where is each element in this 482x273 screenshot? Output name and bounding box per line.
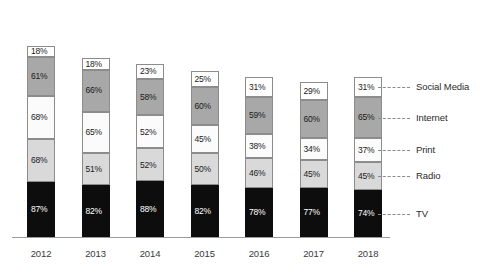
segment-print-2017: 34% (300, 138, 328, 160)
segment-print-2015: 45% (191, 125, 219, 153)
segment-print-2016: 38% (245, 134, 273, 158)
segment-value-label: 25% (192, 75, 211, 84)
segment-value-label: 66% (83, 86, 102, 95)
bar-2015: 82%50%45%60%25% (191, 0, 219, 237)
segment-internet-2012: 61% (27, 57, 55, 96)
segment-value-label: 78% (246, 208, 265, 217)
segment-value-label: 60% (192, 102, 211, 111)
x-tick-2017: 2017 (284, 248, 344, 259)
legend-label-social-media: Social Media (416, 81, 469, 92)
segment-social-media-2017: 29% (300, 82, 328, 100)
segment-value-label: 68% (28, 156, 47, 165)
bar-2017: 77%45%34%60%29% (300, 0, 328, 237)
segment-internet-2014: 58% (136, 79, 164, 116)
segment-value-label: 74% (355, 209, 374, 218)
segment-value-label: 45% (192, 135, 211, 144)
x-tick-2012: 2012 (11, 248, 71, 259)
segment-radio-2015: 50% (191, 153, 219, 185)
stacked-bar-chart: 87%68%68%61%18%82%51%65%66%18%88%52%52%5… (0, 0, 482, 273)
segment-value-label: 31% (246, 83, 265, 92)
leader-line-social-media (378, 87, 410, 88)
segment-value-label: 77% (301, 208, 320, 217)
segment-social-media-2013: 18% (82, 58, 110, 69)
segment-tv-2016: 78% (245, 188, 273, 237)
segment-internet-2013: 66% (82, 70, 110, 112)
segment-value-label: 31% (355, 83, 374, 92)
segment-tv-2014: 88% (136, 181, 164, 237)
x-tick-2013: 2013 (66, 248, 126, 259)
legend-label-tv: TV (416, 208, 428, 219)
x-tick-2014: 2014 (120, 248, 180, 259)
segment-internet-2015: 60% (191, 87, 219, 125)
segment-value-label: 52% (137, 128, 156, 137)
segment-value-label: 34% (301, 145, 320, 154)
segment-value-label: 87% (28, 205, 47, 214)
segment-value-label: 29% (301, 87, 320, 96)
x-tick-2015: 2015 (175, 248, 235, 259)
segment-internet-2016: 59% (245, 97, 273, 134)
segment-value-label: 45% (355, 172, 374, 181)
bar-2012: 87%68%68%61%18% (27, 0, 55, 237)
segment-value-label: 23% (137, 67, 156, 76)
segment-social-media-2015: 25% (191, 71, 219, 87)
leader-line-print (378, 150, 410, 151)
segment-radio-2013: 51% (82, 153, 110, 185)
segment-value-label: 59% (246, 111, 265, 120)
segment-print-2014: 52% (136, 115, 164, 148)
x-axis-line (12, 237, 390, 238)
segment-value-label: 38% (246, 142, 265, 151)
segment-tv-2015: 82% (191, 185, 219, 237)
segment-tv-2017: 77% (300, 188, 328, 237)
plot-area: 87%68%68%61%18%82%51%65%66%18%88%52%52%5… (0, 0, 482, 273)
segment-tv-2012: 87% (27, 182, 55, 237)
segment-value-label: 51% (83, 165, 102, 174)
segment-radio-2016: 46% (245, 158, 273, 187)
x-tick-2016: 2016 (229, 248, 289, 259)
segment-value-label: 18% (28, 47, 47, 56)
segment-tv-2013: 82% (82, 185, 110, 237)
bar-2013: 82%51%65%66%18% (82, 0, 110, 237)
segment-radio-2017: 45% (300, 160, 328, 188)
segment-value-label: 52% (137, 161, 156, 170)
legend-label-radio: Radio (416, 170, 440, 181)
bar-2016: 78%46%38%59%31% (245, 0, 273, 237)
segment-value-label: 37% (355, 146, 374, 155)
segment-value-label: 82% (83, 207, 102, 216)
legend-label-print: Print (416, 144, 435, 155)
segment-value-label: 68% (28, 113, 47, 122)
segment-internet-2017: 60% (300, 100, 328, 138)
segment-social-media-2012: 18% (27, 46, 55, 57)
leader-line-tv (378, 214, 410, 215)
legend-label-internet: Internet (416, 112, 447, 123)
segment-value-label: 58% (137, 93, 156, 102)
segment-value-label: 45% (301, 170, 320, 179)
leader-line-internet (378, 118, 410, 119)
segment-social-media-2016: 31% (245, 77, 273, 97)
segment-print-2012: 68% (27, 96, 55, 139)
bar-2014: 88%52%52%58%23% (136, 0, 164, 237)
x-tick-2018: 2018 (338, 248, 398, 259)
segment-value-label: 60% (301, 115, 320, 124)
segment-value-label: 18% (83, 60, 102, 69)
segment-radio-2012: 68% (27, 139, 55, 182)
segment-value-label: 61% (28, 72, 47, 81)
leader-line-radio (378, 176, 410, 177)
segment-value-label: 82% (192, 207, 211, 216)
segment-social-media-2014: 23% (136, 64, 164, 79)
segment-value-label: 65% (83, 128, 102, 137)
segment-radio-2014: 52% (136, 148, 164, 181)
segment-value-label: 46% (246, 169, 265, 178)
segment-value-label: 88% (137, 205, 156, 214)
segment-value-label: 65% (355, 113, 374, 122)
segment-value-label: 50% (192, 165, 211, 174)
segment-print-2013: 65% (82, 112, 110, 153)
